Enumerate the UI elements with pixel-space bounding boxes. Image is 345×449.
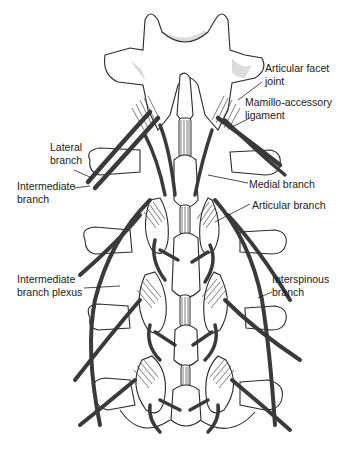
label-interspinous-branch: Interspinous branch [272,273,329,298]
label-intermediate-branch-plexus: Intermediate branch plexus [17,273,82,298]
top-vertebra [105,14,264,130]
label-mamillo-accessory-ligament: Mamillo-accessory ligament [245,96,332,121]
label-intermediate-branch: Intermediate branch [17,180,75,205]
label-articular-branch: Articular branch [252,199,326,212]
label-lateral-branch: Lateral branch [50,141,82,166]
interspinous-column [171,118,201,426]
label-articular-facet-joint: Articular facet joint [265,62,329,87]
label-medial-branch: Medial branch [249,178,315,191]
